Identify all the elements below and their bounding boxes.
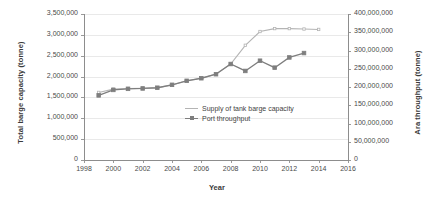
x-axis-spine [84, 160, 349, 161]
legend-swatch-supply-icon [185, 104, 198, 113]
data-point-marker [288, 56, 292, 60]
data-point-marker [112, 88, 116, 92]
legend-label-throughput: Port throughput [202, 115, 250, 122]
data-point-marker [303, 28, 305, 30]
chart-legend: Supply of tank barge capacity Port throu… [185, 103, 294, 123]
data-point-marker [273, 66, 277, 70]
data-point-marker [288, 27, 290, 29]
legend-item-throughput: Port throughput [185, 113, 294, 123]
y-axis-right-spine [348, 14, 349, 161]
data-point-marker [170, 83, 174, 87]
data-point-marker [214, 72, 218, 76]
data-point-marker [97, 94, 101, 98]
data-point-marker [156, 86, 160, 90]
legend-swatch-throughput-icon [185, 114, 198, 123]
legend-item-supply: Supply of tank barge capacity [185, 103, 294, 113]
data-point-marker [185, 79, 189, 83]
data-point-marker [244, 69, 248, 73]
data-point-marker [273, 27, 275, 29]
data-point-marker [302, 51, 306, 55]
series-port-throughput [97, 51, 306, 97]
data-point-marker [126, 87, 130, 91]
legend-label-supply: Supply of tank barge capacity [202, 105, 294, 112]
data-point-marker [229, 62, 233, 66]
plot-area [0, 0, 434, 200]
chart-container: Total barge capacity (tonne) Ara through… [0, 0, 434, 200]
data-point-marker [259, 30, 261, 32]
y-axis-left-spine [84, 14, 85, 161]
series-supply-tank-barge-capacity [97, 27, 319, 93]
data-point-marker [258, 59, 262, 63]
data-point-marker [200, 76, 204, 80]
data-point-marker [317, 28, 319, 30]
data-point-marker [244, 44, 246, 46]
data-point-marker [141, 87, 145, 91]
